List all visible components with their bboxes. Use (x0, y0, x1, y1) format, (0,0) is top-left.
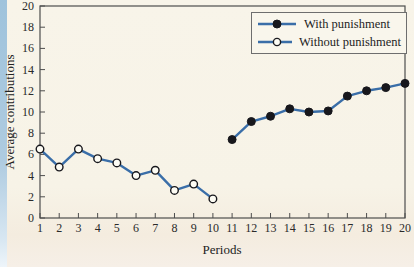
x-tick-label: 2 (56, 221, 62, 235)
data-point-filled-circle (382, 84, 390, 92)
x-tick-label: 20 (399, 221, 411, 235)
y-tick-label: 14 (22, 63, 34, 77)
data-point-filled-circle (305, 108, 313, 116)
data-point-open-circle (94, 155, 102, 163)
data-point-filled-circle (343, 92, 351, 100)
legend-label: Without punishment (299, 35, 401, 49)
y-tick-label: 4 (28, 169, 34, 183)
figure-container: Average contributions Periods 0246810121… (0, 0, 414, 267)
data-point-filled-circle (324, 107, 332, 115)
data-point-open-circle (151, 167, 159, 175)
filled-circle-line-icon (257, 19, 297, 29)
data-point-open-circle (171, 187, 179, 195)
x-tick-label: 18 (361, 221, 373, 235)
open-circle-line-icon (257, 37, 292, 47)
legend-label: With punishment (304, 17, 390, 31)
y-axis-title: Average contributions (2, 55, 17, 170)
data-point-filled-circle (401, 79, 409, 87)
data-point-filled-circle (286, 105, 294, 113)
x-tick-label: 11 (226, 221, 238, 235)
data-point-filled-circle (363, 87, 371, 95)
y-tick-label: 20 (22, 0, 34, 13)
x-tick-label: 19 (380, 221, 392, 235)
x-tick-label: 6 (133, 221, 139, 235)
y-tick-label: 8 (28, 126, 34, 140)
data-point-open-circle (75, 145, 83, 153)
data-point-filled-circle (247, 118, 255, 126)
data-point-open-circle (55, 163, 63, 171)
x-tick-label: 15 (303, 221, 315, 235)
x-tick-label: 12 (245, 221, 257, 235)
data-point-open-circle (209, 195, 217, 203)
y-tick-label: 18 (22, 20, 34, 34)
y-tick-label: 10 (22, 105, 34, 119)
x-tick-label: 1 (37, 221, 43, 235)
x-tick-label: 17 (341, 221, 353, 235)
x-tick-label: 3 (75, 221, 81, 235)
x-tick-label: 13 (265, 221, 277, 235)
y-tick-label: 6 (28, 147, 34, 161)
chart-legend: With punishment Without punishment (251, 12, 407, 54)
x-tick-label: 10 (207, 221, 219, 235)
data-point-filled-circle (228, 136, 236, 144)
legend-item-without-punishment: Without punishment (257, 34, 401, 51)
y-tick-label: 2 (28, 190, 34, 204)
data-point-open-circle (132, 172, 140, 180)
series-line-filled-circle (232, 83, 405, 139)
y-tick-label: 16 (22, 41, 34, 55)
x-tick-label: 4 (95, 221, 101, 235)
y-tick-label: 0 (28, 211, 34, 225)
data-point-open-circle (113, 159, 121, 167)
x-tick-label: 8 (171, 221, 177, 235)
data-point-filled-circle (267, 112, 275, 120)
x-axis-title: Periods (203, 242, 242, 257)
x-tick-label: 14 (284, 221, 296, 235)
x-tick-label: 9 (191, 221, 197, 235)
legend-item-with-punishment: With punishment (257, 15, 401, 32)
series-line-open-circle (40, 149, 213, 199)
data-point-open-circle (36, 145, 44, 153)
x-tick-label: 5 (114, 221, 120, 235)
y-tick-label: 12 (22, 84, 34, 98)
x-tick-label: 16 (322, 221, 334, 235)
data-point-open-circle (190, 180, 198, 188)
x-tick-label: 7 (152, 221, 158, 235)
